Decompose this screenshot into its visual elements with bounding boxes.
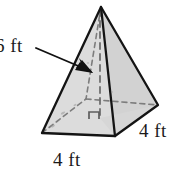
base-right-label: 4 ft xyxy=(139,121,167,140)
base-front-label: 4 ft xyxy=(53,150,81,169)
height-label: 6 ft xyxy=(0,36,23,55)
pyramid-drawing xyxy=(0,0,187,180)
geometry-figure: 6 ft 4 ft 4 ft xyxy=(0,0,187,180)
